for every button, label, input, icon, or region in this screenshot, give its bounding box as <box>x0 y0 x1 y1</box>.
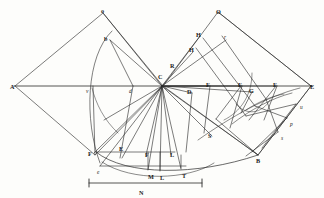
point-label-p: p <box>290 122 293 127</box>
point-label-fm: F <box>145 152 149 158</box>
point-label-o: O <box>216 9 221 15</box>
left-inner-b-d <box>110 40 133 86</box>
ray-C-H2 <box>162 36 200 86</box>
point-label-s: s <box>281 136 283 141</box>
point-label-b: b <box>104 36 107 42</box>
right-band-d <box>216 119 258 155</box>
left-wing-edge-o-C <box>103 13 162 86</box>
ray-C-B <box>162 86 258 155</box>
ray-C-Fl <box>94 86 162 153</box>
point-label-t: T <box>182 173 186 179</box>
diagram-svg <box>0 0 324 198</box>
point-label-u: u <box>300 105 303 110</box>
point-label-l2: L <box>160 175 164 181</box>
point-label-b: B <box>256 158 260 164</box>
left-inner-b-C <box>110 40 162 86</box>
point-label-d: d <box>129 89 132 94</box>
point-label-em: E <box>119 146 123 152</box>
engraving-plate: AobCRHHODFFGFESBFFELMLTNvdrupse <box>0 0 324 198</box>
right-wing-edge-O-E <box>218 12 311 86</box>
point-label-r: R <box>170 63 174 69</box>
left-wing-lower <box>15 86 163 155</box>
point-label-r: r <box>224 35 226 40</box>
point-label-e: E <box>310 84 314 90</box>
point-label-s: S <box>208 133 211 139</box>
drop-F1 <box>204 86 210 133</box>
point-label-c: C <box>158 74 162 80</box>
point-label-g: G <box>249 88 254 94</box>
point-label-f2: F <box>238 82 242 88</box>
point-label-f3: F <box>273 82 277 88</box>
arc-left-small <box>92 88 118 133</box>
drop-D <box>186 93 192 152</box>
point-label-f1: F <box>206 82 210 88</box>
drop-F3 <box>264 86 277 120</box>
point-label-fl: F <box>88 151 92 157</box>
point-label-m: M <box>148 174 154 180</box>
right-band-c <box>266 99 278 132</box>
point-label-n: N <box>139 190 143 196</box>
point-label-l1: L <box>170 152 174 158</box>
point-label-h2: H <box>196 32 201 38</box>
point-label-a: A <box>10 84 14 90</box>
point-label-v: v <box>86 89 88 94</box>
right-quad-3 <box>222 36 266 99</box>
arc-right-big <box>198 88 300 140</box>
right-wing-upper <box>163 12 311 86</box>
point-label-h1: H <box>189 47 194 53</box>
point-label-e: e <box>97 170 99 175</box>
ray-C-H1 <box>162 52 193 86</box>
point-label-o: o <box>101 8 104 14</box>
left-wing-upper <box>15 13 163 86</box>
point-label-d: D <box>187 89 191 95</box>
right-quad-8 <box>246 132 278 156</box>
